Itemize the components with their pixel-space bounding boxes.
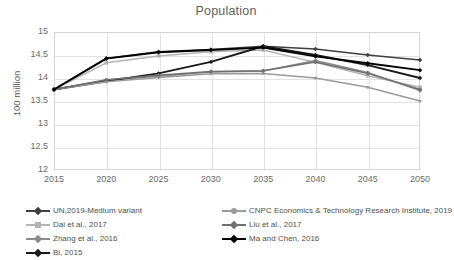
legend-label: Zhang et al., 2016 xyxy=(53,233,118,244)
x-axis-tick-2045: 2045 xyxy=(343,174,393,184)
x-axis-tick-2030: 2030 xyxy=(186,174,236,184)
legend-label: UN,2019-Medium variant xyxy=(53,205,142,216)
legend-item[interactable]: Zhang et al., 2016 xyxy=(26,232,216,245)
x-axis-tick-2020: 2020 xyxy=(81,174,131,184)
x-axis-tick-2040: 2040 xyxy=(290,174,340,184)
legend-label: Bi, 2015 xyxy=(53,247,82,258)
y-axis-tick-12-5: 12.5 xyxy=(4,141,48,151)
y-axis-tick-14: 14 xyxy=(4,72,48,82)
legend-column-left: UN,2019-Medium variantDai et al., 2017Zh… xyxy=(26,204,216,260)
legend-column-right: CNPC Economics & Technology Research Ins… xyxy=(222,204,454,246)
x-axis-tick-2025: 2025 xyxy=(134,174,184,184)
y-axis-tick-12: 12 xyxy=(4,164,48,174)
gridline-horizontal xyxy=(55,125,419,126)
x-axis-tick-2035: 2035 xyxy=(238,174,288,184)
plot-area xyxy=(54,32,420,170)
legend-item[interactable]: CNPC Economics & Technology Research Ins… xyxy=(222,204,454,217)
gridline-vertical xyxy=(316,33,317,169)
legend-item[interactable]: Liu et al., 2017 xyxy=(222,218,454,231)
legend-item[interactable]: Bi, 2015 xyxy=(26,246,216,259)
legend-marker-icon xyxy=(222,219,246,230)
gridline-horizontal xyxy=(55,102,419,103)
gridline-vertical xyxy=(107,33,108,169)
gridline-horizontal xyxy=(55,79,419,80)
legend-marker-icon xyxy=(26,219,50,230)
gridline-vertical xyxy=(212,33,213,169)
gridline-vertical xyxy=(369,33,370,169)
legend-marker-icon xyxy=(26,247,50,258)
x-axis-tick-2050: 2050 xyxy=(395,174,445,184)
y-axis-tick-14-5: 14.5 xyxy=(4,49,48,59)
gridline-horizontal xyxy=(55,148,419,149)
legend-label: CNPC Economics & Technology Research Ins… xyxy=(249,205,452,216)
legend-label: Liu et al., 2017 xyxy=(249,219,301,230)
legend-item[interactable]: UN,2019-Medium variant xyxy=(26,204,216,217)
chart-title: Population xyxy=(0,4,452,18)
legend-label: Ma and Chen, 2016 xyxy=(249,233,319,244)
legend-marker-icon xyxy=(222,233,246,244)
legend-item[interactable]: Dai et al., 2017 xyxy=(26,218,216,231)
legend-label: Dai et al., 2017 xyxy=(53,219,107,230)
gridline-vertical xyxy=(160,33,161,169)
gridline-horizontal xyxy=(55,56,419,57)
x-axis-tick-2015: 2015 xyxy=(29,174,79,184)
chart-legend: UN,2019-Medium variantDai et al., 2017Zh… xyxy=(26,204,446,256)
y-axis-tick-13-5: 13.5 xyxy=(4,95,48,105)
legend-marker-icon xyxy=(26,205,50,216)
legend-marker-icon xyxy=(26,233,50,244)
y-axis-tick-13: 13 xyxy=(4,118,48,128)
gridline-vertical xyxy=(264,33,265,169)
y-axis-tick-15: 15 xyxy=(4,26,48,36)
legend-item[interactable]: Ma and Chen, 2016 xyxy=(222,232,454,245)
legend-marker-icon xyxy=(222,205,246,216)
